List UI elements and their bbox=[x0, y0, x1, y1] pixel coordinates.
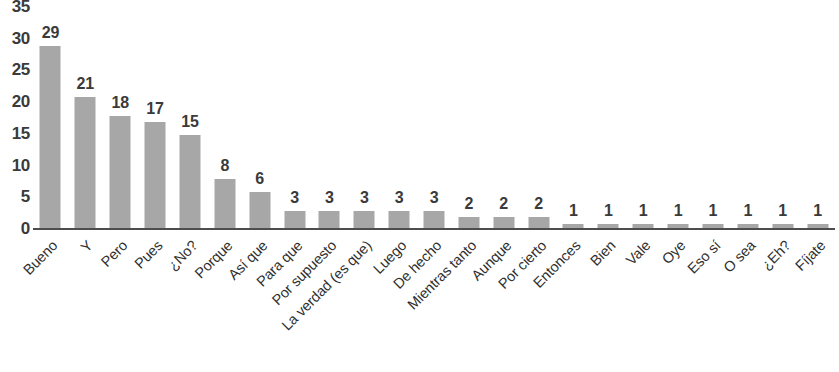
bar-slot: 6 bbox=[242, 8, 277, 230]
category-label: Bueno bbox=[21, 238, 61, 278]
bar-value-label: 6 bbox=[255, 171, 264, 187]
category-label: Pero bbox=[99, 238, 131, 270]
category-slot: Bueno bbox=[33, 232, 68, 370]
bar-value-label: 2 bbox=[499, 196, 508, 212]
category-slot: O sea bbox=[730, 232, 765, 370]
bar-slot: 1 bbox=[696, 8, 731, 230]
bar-value-label: 1 bbox=[639, 203, 648, 219]
bar-slot: 29 bbox=[33, 8, 68, 230]
bar-slot: 1 bbox=[556, 8, 591, 230]
bar-value-label: 15 bbox=[181, 114, 198, 130]
category-label: Bien bbox=[588, 238, 618, 268]
y-axis: 05101520253035 bbox=[0, 0, 30, 230]
bar-slot: 17 bbox=[138, 8, 173, 230]
bar-slot: 1 bbox=[730, 8, 765, 230]
bar bbox=[145, 122, 166, 230]
bar-value-label: 3 bbox=[290, 190, 299, 206]
category-slot: Y bbox=[68, 232, 103, 370]
bar-value-label: 29 bbox=[42, 25, 59, 41]
bar-slot: 3 bbox=[417, 8, 452, 230]
bar-slot: 3 bbox=[277, 8, 312, 230]
bar bbox=[40, 46, 61, 230]
bar-slot: 18 bbox=[103, 8, 138, 230]
category-slot: Entonces bbox=[556, 232, 591, 370]
bar-value-label: 1 bbox=[674, 203, 683, 219]
plot-area: 2921181715863333322211111111 bbox=[33, 8, 835, 230]
category-slot: Eso sí bbox=[696, 232, 731, 370]
y-tick-label: 5 bbox=[2, 188, 30, 205]
x-axis-labels: BuenoYPeroPues¿No?PorqueAsí quePara queP… bbox=[33, 232, 835, 370]
y-tick-label: 10 bbox=[2, 156, 30, 173]
bar bbox=[249, 192, 270, 230]
bar-value-label: 21 bbox=[77, 76, 94, 92]
category-label: Y bbox=[79, 238, 96, 255]
category-slot: Vale bbox=[626, 232, 661, 370]
y-tick-label: 35 bbox=[2, 0, 30, 15]
category-slot: Fíjate bbox=[800, 232, 835, 370]
category-label: Vale bbox=[624, 238, 654, 268]
x-axis-line bbox=[33, 228, 835, 230]
category-slot: ¿Eh? bbox=[765, 232, 800, 370]
bar-value-label: 17 bbox=[146, 101, 163, 117]
bar bbox=[110, 116, 131, 230]
bar-value-label: 1 bbox=[709, 203, 718, 219]
bar bbox=[75, 97, 96, 230]
category-slot: Por cierto bbox=[521, 232, 556, 370]
bar-value-label: 1 bbox=[569, 203, 578, 219]
category-slot: Pues bbox=[138, 232, 173, 370]
bar-slot: 3 bbox=[382, 8, 417, 230]
bar-slot: 2 bbox=[486, 8, 521, 230]
bar-slot: 2 bbox=[451, 8, 486, 230]
bar-value-label: 18 bbox=[111, 95, 128, 111]
bar-slot: 3 bbox=[312, 8, 347, 230]
y-tick-label: 15 bbox=[2, 124, 30, 141]
bar-slot: 3 bbox=[347, 8, 382, 230]
category-slot: Bien bbox=[591, 232, 626, 370]
bar bbox=[179, 135, 200, 230]
y-tick-label: 20 bbox=[2, 93, 30, 110]
category-label: Pues bbox=[132, 238, 165, 271]
y-tick-label: 30 bbox=[2, 29, 30, 46]
bar-value-label: 3 bbox=[325, 190, 334, 206]
category-slot: Aunque bbox=[486, 232, 521, 370]
bar-slot: 1 bbox=[661, 8, 696, 230]
category-slot: Pero bbox=[103, 232, 138, 370]
bar-slot: 1 bbox=[591, 8, 626, 230]
category-slot: Así que bbox=[242, 232, 277, 370]
bar-value-label: 1 bbox=[604, 203, 613, 219]
bar-slot: 1 bbox=[626, 8, 661, 230]
bar-value-label: 2 bbox=[464, 196, 473, 212]
bar-slot: 2 bbox=[521, 8, 556, 230]
category-label: Oye bbox=[659, 238, 688, 267]
bar-slot: 21 bbox=[68, 8, 103, 230]
category-slot: Porque bbox=[207, 232, 242, 370]
bar-value-label: 1 bbox=[778, 203, 787, 219]
bar-value-label: 3 bbox=[360, 190, 369, 206]
bar-slot: 15 bbox=[172, 8, 207, 230]
bar-slot: 8 bbox=[207, 8, 242, 230]
bar-value-label: 2 bbox=[534, 196, 543, 212]
bar-chart: 05101520253035 2921181715863333322211111… bbox=[0, 0, 839, 372]
bar-slot: 1 bbox=[800, 8, 835, 230]
bar-value-label: 3 bbox=[430, 190, 439, 206]
category-slot: Mientras tanto bbox=[451, 232, 486, 370]
bar-value-label: 1 bbox=[813, 203, 822, 219]
bar-value-label: 8 bbox=[220, 158, 229, 174]
bar-value-label: 1 bbox=[743, 203, 752, 219]
category-slot: ¿No? bbox=[172, 232, 207, 370]
bar bbox=[214, 179, 235, 230]
category-slot: La verdad (es que) bbox=[347, 232, 382, 370]
bar-slot: 1 bbox=[765, 8, 800, 230]
y-tick-label: 25 bbox=[2, 61, 30, 78]
bar-value-label: 3 bbox=[395, 190, 404, 206]
category-slot: Oye bbox=[661, 232, 696, 370]
y-tick-label: 0 bbox=[2, 220, 30, 237]
